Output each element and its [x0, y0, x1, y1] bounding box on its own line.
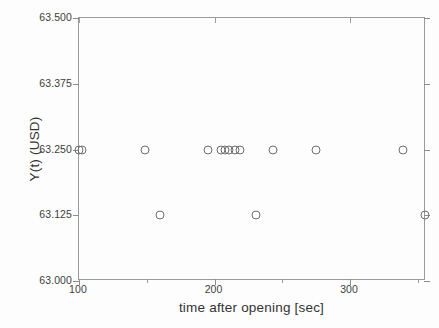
- data-point-marker: [398, 145, 407, 154]
- y-tick-label: 63.500: [39, 11, 72, 23]
- y-axis-tick: [424, 281, 430, 282]
- data-point-marker: [235, 145, 244, 154]
- data-point-marker: [78, 145, 87, 154]
- plot-area: [78, 17, 425, 280]
- y-axis-tick: [424, 18, 430, 19]
- y-tick-label: 63.375: [39, 77, 72, 89]
- scatter-chart-figure: Y(t) (USD) 63.00063.12563.25063.37563.50…: [0, 0, 439, 328]
- y-axis-tick: [73, 215, 79, 216]
- data-point-marker: [311, 145, 320, 154]
- data-point-marker: [141, 145, 150, 154]
- x-tick-label: 200: [205, 283, 223, 295]
- x-axis-tick-top: [350, 18, 351, 23]
- data-point-marker: [155, 211, 164, 220]
- x-axis-tick: [350, 279, 351, 285]
- x-axis-tick: [215, 279, 216, 285]
- y-axis-tick: [424, 84, 430, 85]
- x-axis-tick: [79, 279, 80, 285]
- y-tick-label: 63.000: [39, 274, 72, 286]
- y-axis-tick: [73, 84, 79, 85]
- data-point-marker: [420, 211, 429, 220]
- y-axis-tick: [424, 150, 430, 151]
- y-tick-label-group: 63.00063.12563.25063.37563.500: [0, 17, 72, 280]
- x-axis-tick-top: [79, 18, 80, 23]
- x-axis-title: time after opening [sec]: [78, 300, 425, 315]
- x-axis-minor-tick: [282, 279, 283, 283]
- y-tick-label: 63.125: [39, 208, 72, 220]
- data-point-marker: [251, 211, 260, 220]
- x-axis-minor-tick: [147, 279, 148, 283]
- x-tick-label: 100: [69, 283, 87, 295]
- data-point-marker: [203, 145, 212, 154]
- data-point-marker: [268, 145, 277, 154]
- y-tick-label: 63.250: [39, 143, 72, 155]
- x-axis-tick-top: [215, 18, 216, 23]
- x-tick-label: 300: [340, 283, 358, 295]
- x-axis-minor-tick: [418, 279, 419, 283]
- x-tick-label-group: 100200300: [78, 283, 425, 299]
